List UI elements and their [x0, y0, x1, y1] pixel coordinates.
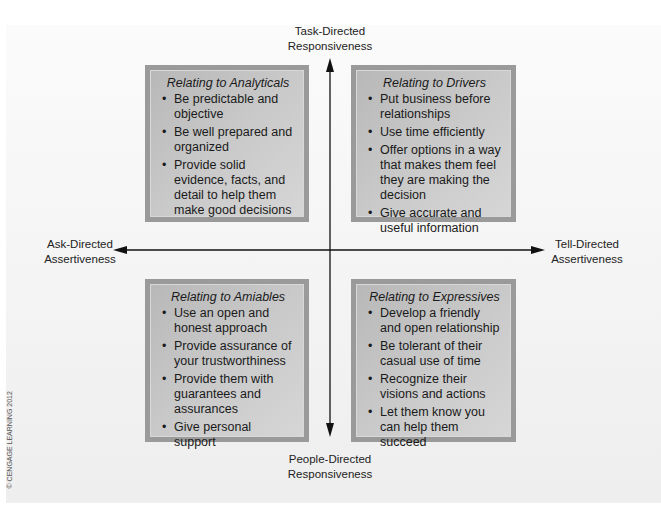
- axis-label-left-line2: Assertiveness: [40, 252, 120, 267]
- axis-label-top-line1: Task-Directed: [260, 24, 400, 39]
- quadrant-title: Relating to Amiables: [161, 290, 295, 304]
- list-item: Put business before relationships: [367, 92, 502, 122]
- quadrant-list: Develop a friendly and open relationship…: [367, 306, 502, 450]
- axis-label-bottom-line2: Responsiveness: [260, 467, 400, 482]
- quadrant-expressives-content: Relating to Expressives Develop a friend…: [356, 284, 511, 437]
- quadrant-analyticals: Relating to Analyticals Be predictable a…: [145, 65, 309, 222]
- list-item: Give accurate and useful information: [367, 206, 502, 236]
- list-item: Use time efficiently: [367, 125, 502, 140]
- list-item: Provide them with guarantees and assuran…: [161, 372, 295, 417]
- list-item: Provide assurance of your trustworthines…: [161, 339, 295, 369]
- quadrant-drivers-content: Relating to Drivers Put business before …: [356, 70, 511, 217]
- axis-label-right-line1: Tell-Directed: [547, 237, 627, 252]
- list-item: Be well prepared and organized: [161, 125, 295, 155]
- axis-label-top: Task-Directed Responsiveness: [260, 24, 400, 54]
- list-item: Recognize their visions and actions: [367, 372, 502, 402]
- quadrant-analyticals-content: Relating to Analyticals Be predictable a…: [150, 70, 304, 217]
- quadrant-amiables: Relating to Amiables Use an open and hon…: [145, 279, 309, 442]
- quadrant-drivers: Relating to Drivers Put business before …: [351, 65, 516, 222]
- axis-label-left: Ask-Directed Assertiveness: [40, 237, 120, 267]
- quadrant-title: Relating to Drivers: [367, 76, 502, 90]
- axis-label-left-line1: Ask-Directed: [40, 237, 120, 252]
- list-item: Offer options in a way that makes them f…: [367, 143, 502, 203]
- quadrant-title: Relating to Expressives: [367, 290, 502, 304]
- copyright-notice: © CENGAGE LEARNING 2012: [6, 399, 13, 489]
- quadrant-list: Use an open and honest approach Provide …: [161, 306, 295, 450]
- axis-label-right: Tell-Directed Assertiveness: [547, 237, 627, 267]
- quadrant-amiables-content: Relating to Amiables Use an open and hon…: [150, 284, 304, 437]
- list-item: Develop a friendly and open relationship: [367, 306, 502, 336]
- list-item: Be tolerant of their casual use of time: [367, 339, 502, 369]
- list-item: Let them know you can help them succeed: [367, 405, 502, 450]
- quadrant-expressives: Relating to Expressives Develop a friend…: [351, 279, 516, 442]
- list-item: Provide solid evidence, facts, and detai…: [161, 158, 295, 218]
- quadrant-title: Relating to Analyticals: [161, 76, 295, 90]
- quadrant-list: Put business before relationships Use ti…: [367, 92, 502, 236]
- list-item: Give personal support: [161, 420, 295, 450]
- axis-label-right-line2: Assertiveness: [547, 252, 627, 267]
- quadrant-list: Be predictable and objective Be well pre…: [161, 92, 295, 218]
- axis-label-bottom: People-Directed Responsiveness: [260, 452, 400, 482]
- list-item: Be predictable and objective: [161, 92, 295, 122]
- list-item: Use an open and honest approach: [161, 306, 295, 336]
- axis-label-bottom-line1: People-Directed: [260, 452, 400, 467]
- axis-label-top-line2: Responsiveness: [260, 39, 400, 54]
